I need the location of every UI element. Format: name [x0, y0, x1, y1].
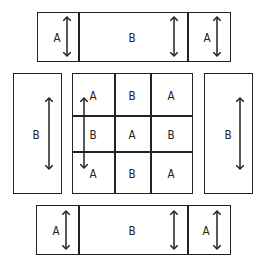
double-arrow-icons: [0, 0, 261, 264]
